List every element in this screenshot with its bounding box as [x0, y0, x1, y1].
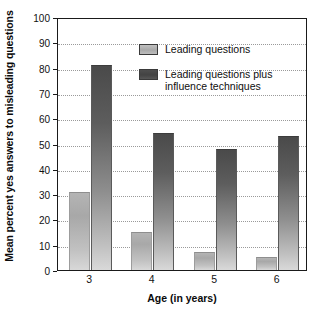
bar	[69, 192, 90, 270]
x-axis-tick-label: 3	[86, 273, 92, 285]
bar	[91, 65, 112, 270]
y-axis-tick-label: 0	[44, 266, 50, 277]
y-axis-tickmark	[53, 18, 57, 19]
bar-chart-figure: Mean percent yes answers to misleading q…	[0, 0, 324, 318]
bar	[131, 232, 152, 270]
legend-label: Leading questions	[165, 43, 250, 56]
y-axis-tick-label: 70	[39, 88, 50, 99]
y-axis-tick-label: 20	[39, 215, 50, 226]
legend-label: Leading questions plus influence techniq…	[165, 68, 272, 93]
legend-item-leading-questions: Leading questions	[139, 43, 307, 56]
legend-swatch-icon-dark	[139, 69, 158, 80]
chart-legend: Leading questions Leading questions plus…	[139, 43, 307, 105]
y-axis-tick-label: 30	[39, 190, 50, 201]
y-axis-tickmark	[53, 43, 57, 44]
legend-swatch-icon-light	[139, 44, 158, 55]
y-axis-tick-label: 80	[39, 63, 50, 74]
x-axis-tick-label: 5	[211, 273, 217, 285]
y-axis-tickmark	[53, 195, 57, 196]
plot-area: Leading questions Leading questions plus…	[57, 18, 307, 271]
y-axis-tick-label: 50	[39, 139, 50, 150]
bar	[256, 257, 277, 270]
y-axis-tick-label: 60	[39, 114, 50, 125]
y-axis-title-text: Mean percent yes answers to misleading q…	[3, 10, 15, 261]
y-axis-tickmark	[53, 170, 57, 171]
y-axis-tick-label: 40	[39, 164, 50, 175]
x-axis-tick-label: 6	[274, 273, 280, 285]
y-axis-tickmark	[53, 246, 57, 247]
y-axis-tickmark	[53, 220, 57, 221]
bar	[194, 252, 215, 270]
y-axis-tick-label: 90	[39, 38, 50, 49]
y-axis-tickmark	[53, 69, 57, 70]
legend-item-leading-questions-plus-influence: Leading questions plus influence techniq…	[139, 68, 307, 93]
bar	[216, 149, 237, 270]
bar	[153, 133, 174, 270]
y-axis-tick-label: 100	[33, 13, 50, 24]
y-axis-title: Mean percent yes answers to misleading q…	[0, 0, 18, 272]
y-axis-tick-labels: 0102030405060708090100	[18, 18, 54, 271]
y-axis-tickmark	[53, 145, 57, 146]
bar	[278, 136, 299, 270]
y-axis-tickmark	[53, 119, 57, 120]
x-axis-tick-label: 4	[149, 273, 155, 285]
x-axis-tick-labels: 3456	[57, 273, 307, 289]
y-axis-tick-label: 10	[39, 240, 50, 251]
x-axis-title: Age (in years)	[57, 292, 307, 304]
y-axis-tickmark	[53, 94, 57, 95]
y-axis-tickmark	[53, 271, 57, 272]
